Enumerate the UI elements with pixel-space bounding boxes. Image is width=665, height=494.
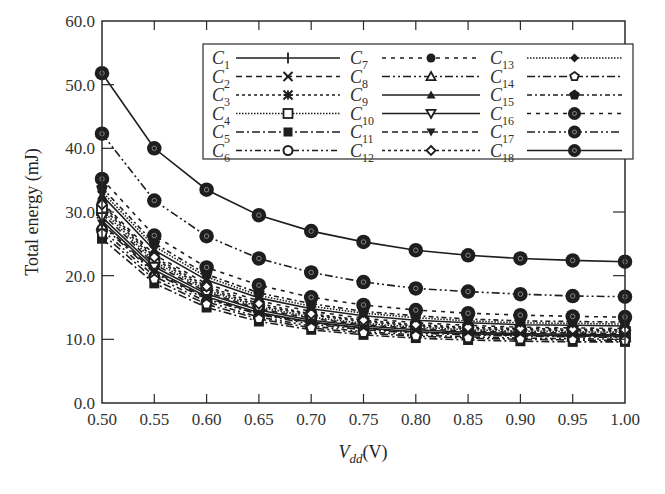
circle-big-filled-marker-icon [565,289,580,304]
pentagon-open-marker-icon [202,299,212,308]
pentagon-open-marker-icon [254,314,264,323]
x-tick-label: 0.65 [244,410,274,429]
circle-open-marker-icon [284,146,293,155]
circle-big-filled-marker-icon [513,308,528,323]
square-filled-marker-icon [284,128,293,137]
circle-big-filled-marker-icon [356,235,371,250]
x-tick-label: 0.85 [453,410,483,429]
x-tick-label: 0.80 [401,410,431,429]
pentagon-filled-marker-icon [570,91,579,99]
x-tick-label: 0.70 [296,410,326,429]
circle-big-filled-marker-icon [356,275,371,290]
circle-filled-marker-icon [427,54,436,63]
y-tick-label: 20.0 [65,267,95,286]
circle-big-filled-marker-icon [461,284,476,299]
circle-big-filled-marker-icon [565,253,580,268]
x-tick-label: 0.55 [139,410,169,429]
pentagon-open-marker-icon [463,333,473,342]
x-tick-label: 0.75 [349,410,379,429]
circle-big-filled-marker-icon [252,278,267,293]
y-tick-label: 0.0 [74,394,95,413]
y-tick-label: 50.0 [65,76,95,95]
y-axis-title: Total energy (mJ) [22,148,43,275]
circle-big-filled-marker-icon [147,228,162,243]
x-tick-label: 0.90 [506,410,536,429]
square-open-marker-icon [284,109,293,118]
circle-big-filled-marker-icon [147,141,162,156]
pentagon-open-marker-icon [150,275,160,284]
circle-big-filled-marker-icon [356,298,371,313]
x-tick-label: 1.00 [610,410,640,429]
pentagon-open-marker-icon [568,335,578,344]
circle-big-filled-marker-icon [199,260,214,275]
pentagon-open-marker-icon [359,328,369,337]
pentagon-open-marker-icon [516,334,526,343]
legend: C1C2C3C4C5C6C7C8C9C10C11C12C13C14C15C16C… [203,44,633,165]
circle-big-filled-marker-icon [565,309,580,324]
pentagon-open-marker-icon [570,72,579,80]
x-tick-label: 0.60 [192,410,222,429]
circle-big-filled-marker-icon [147,193,162,208]
asterisk-marker-icon [284,91,293,100]
circle-big-filled-marker-icon [568,144,581,157]
y-tick-label: 60.0 [65,12,95,31]
pentagon-open-marker-icon [306,323,316,332]
circle-big-filled-marker-icon [568,107,581,120]
circle-big-filled-marker-icon [409,303,424,318]
circle-big-filled-marker-icon [461,248,476,263]
circle-big-filled-marker-icon [304,224,319,239]
circle-big-filled-marker-icon [199,182,214,197]
line-chart: 0.500.550.600.650.700.750.800.850.900.95… [0,0,665,494]
circle-big-filled-marker-icon [252,251,267,266]
circle-big-filled-marker-icon [568,125,581,138]
pentagon-open-marker-icon [411,331,421,340]
circle-big-filled-marker-icon [461,306,476,321]
x-axis-title-unit: (V) [363,442,388,463]
circle-big-filled-marker-icon [199,229,214,244]
y-tick-label: 40.0 [65,139,95,158]
x-axis-title: Vdd(V) [339,442,388,466]
x-tick-label: 0.95 [558,410,588,429]
circle-big-filled-marker-icon [409,281,424,296]
circle-big-filled-marker-icon [304,265,319,280]
y-tick-label: 10.0 [65,330,95,349]
circle-big-filled-marker-icon [513,251,528,266]
circle-big-filled-marker-icon [513,287,528,302]
circle-big-filled-marker-icon [304,290,319,305]
circle-big-filled-marker-icon [252,208,267,223]
y-tick-label: 30.0 [65,203,95,222]
legend-box [203,44,633,159]
circle-big-filled-marker-icon [409,243,424,258]
x-axis-title-sub: dd [350,451,364,466]
